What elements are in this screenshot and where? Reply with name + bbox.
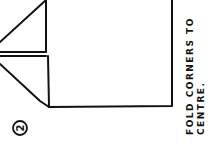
paper-body [46,0,172,107]
bottom-folded-corner [0,56,49,107]
folding-diagram: 2 [0,0,215,143]
top-folded-corner [0,0,46,52]
step-number: 2 [15,124,26,131]
instruction-line-1: FOLD CORNERS TO [185,17,195,135]
step-number-badge: 2 [13,121,27,135]
instruction-line-2: CENTRE. [196,82,206,135]
